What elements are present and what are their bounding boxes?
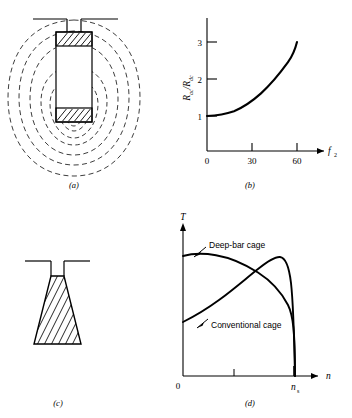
conventional-cage-annotation: Conventional cage bbox=[197, 319, 282, 330]
deep-bar-cage-label: Deep-bar cage bbox=[209, 240, 266, 250]
caption-c: (c) bbox=[38, 398, 78, 408]
conductor-bottom-hatched bbox=[55, 107, 98, 123]
y-axis-title-d: T bbox=[180, 212, 186, 222]
panel-b: 3 2 1 0 30 60 f 2 Rac/Rdc bbox=[176, 0, 352, 200]
x-axis-arrowhead bbox=[317, 148, 324, 154]
deep-bar-leader-line bbox=[194, 247, 206, 257]
tapered-conductor-hatched bbox=[14, 269, 110, 349]
slot-opening-lines-c bbox=[25, 261, 90, 276]
y-axis-ticks bbox=[207, 42, 217, 116]
conventional-leader-line bbox=[197, 319, 208, 328]
y-tick-labels: 3 2 1 bbox=[198, 38, 203, 122]
panel-c bbox=[0, 209, 176, 409]
x-axis-title-sub: 2 bbox=[334, 152, 337, 158]
x-tick-labels: 0 30 60 bbox=[205, 156, 302, 166]
caption-a: (a) bbox=[54, 180, 94, 190]
deep-bar-slot-with-flux-svg bbox=[0, 0, 176, 200]
x-tick-label-0: 0 bbox=[205, 156, 210, 166]
caption-b: (b) bbox=[230, 180, 270, 190]
y-axis-den-sub: dc bbox=[188, 75, 194, 81]
x-tick-label-60: 60 bbox=[293, 156, 303, 166]
x-axis-ticks bbox=[252, 143, 297, 151]
deep-bar-cage-curve bbox=[183, 254, 295, 376]
x-axis-title-d: n bbox=[326, 371, 331, 381]
panel-d: T n 0 n s Deep-bar cage Conventional cag… bbox=[176, 209, 352, 409]
conductor-top-hatched bbox=[55, 31, 99, 48]
sync-speed-label-sub: s bbox=[297, 388, 300, 394]
tapered-slot-svg bbox=[0, 209, 176, 409]
y-tick-label-1: 1 bbox=[198, 112, 203, 122]
y-tick-label-2: 2 bbox=[198, 75, 203, 85]
resistance-ratio-chart-svg: 3 2 1 0 30 60 f 2 Rac/Rdc bbox=[176, 0, 352, 200]
x-axis-arrowhead-d bbox=[311, 373, 318, 379]
conventional-cage-label: Conventional cage bbox=[211, 320, 282, 330]
caption-d: (d) bbox=[230, 398, 270, 408]
y-axis-title-text: Rac/Rdc bbox=[182, 75, 194, 102]
sync-speed-label-base: n bbox=[291, 382, 296, 392]
x-axis-title: f 2 bbox=[328, 146, 337, 158]
y-axis-arrowhead bbox=[180, 223, 186, 231]
resistance-ratio-curve bbox=[207, 42, 297, 116]
x-axis-title-base: f bbox=[328, 146, 332, 156]
axes bbox=[207, 18, 324, 154]
slot-opening-lines bbox=[33, 19, 118, 32]
panel-a bbox=[0, 0, 176, 200]
torque-speed-chart-svg: T n 0 n s Deep-bar cage Conventional cag… bbox=[176, 209, 352, 409]
x-origin-label-d: 0 bbox=[176, 381, 181, 391]
x-tick-label-30: 30 bbox=[248, 156, 258, 166]
conventional-cage-curve bbox=[183, 257, 295, 376]
y-axis-title: Rac/Rdc bbox=[182, 75, 194, 102]
y-tick-label-3: 3 bbox=[198, 38, 203, 48]
